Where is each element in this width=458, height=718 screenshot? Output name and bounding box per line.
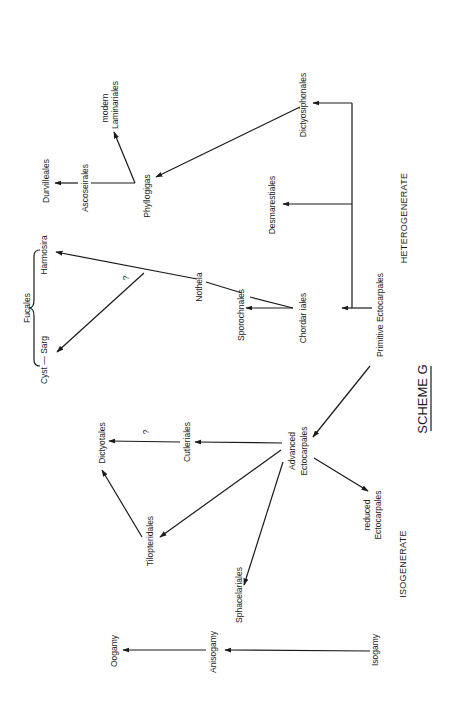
label-dictyotales: Dictyotales xyxy=(97,422,107,464)
label-laminariales: Laminariales xyxy=(110,81,120,129)
arrow-to-laminariales xyxy=(114,132,135,183)
label-modern: modern xyxy=(100,93,110,122)
label-isogamy: Isogamy xyxy=(370,633,380,666)
label-reduced-ectocarpales: Ectocarpales xyxy=(373,490,383,539)
line-chordariales-notheia xyxy=(250,297,293,308)
label-dictyosiphonales: Dictyosiphonales xyxy=(298,73,308,137)
scheme-g-diagram: Dictyosiphonales Desmarestiales Primitiv… xyxy=(0,0,458,718)
arrow-from-tilopteridales-to-dictyotales xyxy=(102,470,142,537)
scheme-title: SCHEME G xyxy=(415,364,430,433)
arrow-to-cutleriales xyxy=(195,442,282,443)
label-chordariales: Chordar iales xyxy=(298,293,308,344)
label-reduced: reduced xyxy=(362,499,372,530)
label-sphacelariales: Sphacelariales xyxy=(234,567,244,623)
label-heterogenerate: HETEROGENERATE xyxy=(399,173,409,264)
arrow-to-reduced-ectocarpales xyxy=(314,458,368,491)
label-primitive-ectocarpales: Primitive Ectocarpales xyxy=(375,273,385,357)
question-mark-dictyotales: ? xyxy=(141,429,151,434)
arrow-to-cyst-sarg xyxy=(57,273,144,352)
arrow-to-sphacelariales xyxy=(244,462,283,585)
label-anisogamy: Anisogamy xyxy=(208,630,218,673)
label-cutleriales: Cutleriales xyxy=(182,422,192,462)
arrow-to-advanced-ectocarpales xyxy=(313,366,370,437)
arrow-to-dictyotales-uncertain xyxy=(109,441,180,442)
label-isogenerate: ISOGENERATE xyxy=(398,530,408,598)
label-harmosira: Harmosira xyxy=(39,235,49,274)
label-advanced: Advanced xyxy=(287,432,297,470)
label-notheia: Notheia xyxy=(194,272,204,302)
label-advanced-ectocarpales: Ectocarpales xyxy=(299,426,309,475)
label-tilopteridales: Tilopteridales xyxy=(145,516,155,566)
label-phyllogigas: Phyllogigas xyxy=(142,174,152,217)
label-desmarestiales: Desmarestiales xyxy=(267,176,277,235)
arrow-to-anisogamy xyxy=(225,650,370,651)
label-fucales: Fucales xyxy=(22,293,32,323)
label-ascoseirales: Ascoseirales xyxy=(80,164,90,212)
label-oogamy: Oogamy xyxy=(109,634,119,667)
arrow-to-harmosira xyxy=(56,252,197,279)
question-mark-fucales: ? xyxy=(121,275,131,280)
arrow-to-phyllogigas xyxy=(156,107,300,177)
label-cyst-sarg: Cyst — Sarg xyxy=(39,336,49,384)
label-sporochnales: Sporochnales xyxy=(236,289,246,341)
label-durvilleales: Durvilleales xyxy=(41,159,51,203)
